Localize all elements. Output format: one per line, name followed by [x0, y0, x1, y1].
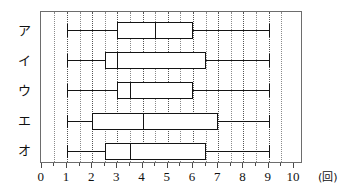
x-axis-tick	[293, 163, 294, 168]
category-label-4: エ	[12, 114, 36, 127]
whisker-cap-max	[269, 24, 270, 37]
x-axis-tick	[230, 163, 231, 166]
x-axis-tick	[205, 163, 206, 166]
gridline	[206, 12, 207, 162]
median-line	[130, 82, 131, 99]
x-axis-unit-label: (回)	[318, 171, 338, 184]
x-axis-tick	[217, 163, 218, 168]
x-axis-tick	[167, 163, 168, 168]
plot-frame	[40, 11, 302, 163]
category-label-2: イ	[12, 53, 36, 66]
x-axis-tick	[91, 163, 92, 168]
gridline	[218, 12, 219, 162]
x-axis-tick	[66, 163, 67, 168]
gridline	[243, 12, 244, 162]
x-axis: 012345678910 (回)	[0, 163, 353, 196]
category-label-5: オ	[12, 144, 36, 157]
gridline	[256, 12, 257, 162]
x-axis-tick	[41, 163, 42, 168]
x-axis-tick	[154, 163, 155, 166]
x-axis-tick	[142, 163, 143, 168]
x-axis-tick	[255, 163, 256, 166]
box-rect	[117, 82, 193, 99]
whisker-cap-max	[269, 84, 270, 97]
whisker-cap-min	[67, 24, 68, 37]
x-axis-tick	[268, 163, 269, 168]
whisker-cap-min	[67, 54, 68, 67]
x-axis-tick	[79, 163, 80, 166]
x-axis-tick	[129, 163, 130, 166]
whisker-cap-min	[67, 145, 68, 158]
gridline	[231, 12, 232, 162]
gridline	[54, 12, 55, 162]
x-axis-tick	[116, 163, 117, 168]
category-label-1: ア	[12, 23, 36, 36]
gridline	[105, 12, 106, 162]
category-label-3: ウ	[12, 83, 36, 96]
whisker-cap-min	[67, 115, 68, 128]
x-axis-tick	[53, 163, 54, 166]
x-axis-tick	[179, 163, 180, 166]
box-rect	[92, 113, 218, 130]
gridline	[193, 12, 194, 162]
box-rect	[105, 143, 206, 160]
median-line	[130, 143, 131, 160]
boxplot-figure: アイウエオ 012345678910 (回)	[0, 0, 353, 196]
x-axis-tick	[280, 163, 281, 166]
box-rect	[105, 52, 206, 69]
x-axis-tick	[242, 163, 243, 168]
gridline	[80, 12, 81, 162]
x-axis-tick	[104, 163, 105, 166]
median-line	[143, 113, 144, 130]
x-axis-tick	[192, 163, 193, 168]
gridline	[281, 12, 282, 162]
median-line	[155, 22, 156, 39]
x-axis-tick-label-10: 10	[278, 170, 308, 184]
whisker-cap-max	[269, 145, 270, 158]
gridline	[92, 12, 93, 162]
whisker-cap-min	[67, 84, 68, 97]
median-line	[117, 52, 118, 69]
whisker-cap-max	[269, 115, 270, 128]
whisker-cap-max	[269, 54, 270, 67]
